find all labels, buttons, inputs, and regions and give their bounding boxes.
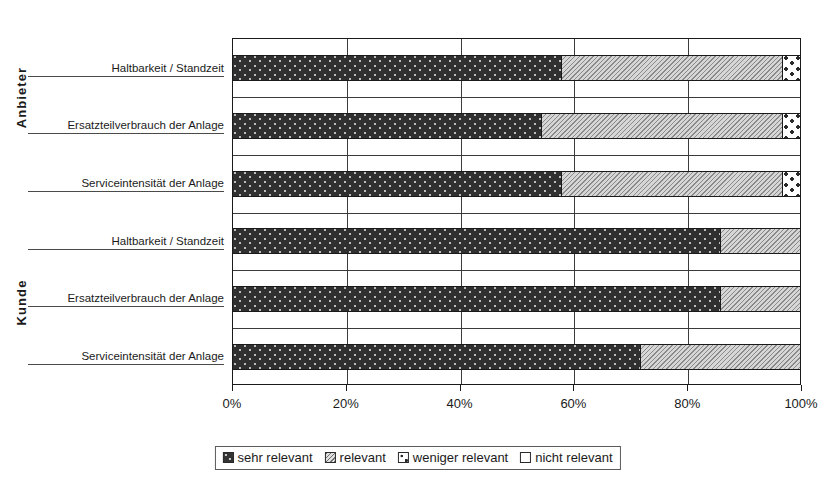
category-separator xyxy=(233,97,800,98)
x-axis-tick xyxy=(687,385,688,391)
category-separator xyxy=(233,328,800,329)
legend-item[interactable]: nicht relevant xyxy=(520,450,612,465)
x-axis-tick xyxy=(346,385,347,391)
segment-outline xyxy=(641,344,800,370)
x-axis-tick xyxy=(573,385,574,391)
category-label: Serviceintensität der Anlage xyxy=(28,349,224,365)
segment-outline xyxy=(542,113,782,139)
x-axis-tick-label: 20% xyxy=(333,396,359,411)
x-axis-tick xyxy=(232,385,233,391)
bar-segment[interactable] xyxy=(233,286,721,312)
bar-segment[interactable] xyxy=(783,55,800,81)
bar-segment[interactable] xyxy=(233,171,562,197)
bar-segment[interactable] xyxy=(233,55,562,81)
stacked-bar[interactable] xyxy=(233,286,800,312)
legend-label: weniger relevant xyxy=(413,450,508,465)
legend-item[interactable]: sehr relevant xyxy=(222,450,312,465)
x-axis-tick-label: 60% xyxy=(560,396,586,411)
gridline xyxy=(347,39,348,384)
category-separator xyxy=(233,270,800,271)
category-axis-labels: Haltbarkeit / Standzeit Ersatzteilverbra… xyxy=(26,0,224,480)
segment-outline xyxy=(562,55,782,81)
bar-segment[interactable] xyxy=(233,344,641,370)
segment-outline xyxy=(233,286,720,312)
segment-outline xyxy=(233,344,640,370)
x-axis-tick-label: 80% xyxy=(674,396,700,411)
legend-label: sehr relevant xyxy=(237,450,312,465)
segment-outline xyxy=(783,113,800,139)
category-label: Ersatzteilverbrauch der Anlage xyxy=(28,118,224,134)
legend-label: nicht relevant xyxy=(535,450,612,465)
gridline xyxy=(688,39,689,384)
legend: sehr relevantrelevantweniger relevantnic… xyxy=(214,446,620,470)
gridlines xyxy=(233,39,800,384)
bar-segment[interactable] xyxy=(721,228,800,254)
white-dots-swatch xyxy=(398,452,409,463)
stacked-bar[interactable] xyxy=(233,55,800,81)
category-label: Haltbarkeit / Standzeit xyxy=(28,61,224,77)
gridline xyxy=(574,39,575,384)
grey-hatch-swatch xyxy=(325,452,336,463)
dark-speckle-swatch xyxy=(222,452,233,463)
segment-outline xyxy=(233,55,561,81)
segment-outline xyxy=(233,228,720,254)
x-axis: 0%20%40%60%80%100% xyxy=(232,385,801,386)
bar-segment[interactable] xyxy=(562,55,783,81)
segment-outline xyxy=(233,113,541,139)
x-axis-tick xyxy=(801,385,802,391)
bar-segment[interactable] xyxy=(233,113,542,139)
x-axis-tick-label: 100% xyxy=(784,396,817,411)
bar-segment[interactable] xyxy=(562,171,783,197)
stacked-bar[interactable] xyxy=(233,171,800,197)
legend-item[interactable]: relevant xyxy=(325,450,386,465)
category-label: Haltbarkeit / Standzeit xyxy=(28,234,224,250)
category-separator xyxy=(233,155,800,156)
bar-segment[interactable] xyxy=(721,286,800,312)
bar-segment[interactable] xyxy=(783,171,800,197)
bar-segment[interactable] xyxy=(233,228,721,254)
bar-segment[interactable] xyxy=(542,113,783,139)
category-label: Ersatzteilverbrauch der Anlage xyxy=(28,291,224,307)
stacked-bar-chart: Anbieter Kunde Haltbarkeit / Standzeit E… xyxy=(0,0,835,480)
stacked-bar[interactable] xyxy=(233,344,800,370)
plot-area xyxy=(232,38,801,385)
x-axis-tick-label: 0% xyxy=(223,396,242,411)
category-label: Serviceintensität der Anlage xyxy=(28,176,224,192)
x-axis-tick-label: 40% xyxy=(447,396,473,411)
segment-outline xyxy=(721,286,800,312)
stacked-bar[interactable] xyxy=(233,113,800,139)
bar-segment[interactable] xyxy=(641,344,800,370)
segment-outline xyxy=(562,171,782,197)
gridline xyxy=(461,39,462,384)
x-axis-tick xyxy=(460,385,461,391)
stacked-bar[interactable] xyxy=(233,228,800,254)
segment-outline xyxy=(721,228,800,254)
segment-outline xyxy=(783,171,800,197)
legend-item[interactable]: weniger relevant xyxy=(398,450,508,465)
segment-outline xyxy=(783,55,800,81)
segment-outline xyxy=(233,171,561,197)
white-plain-swatch xyxy=(520,452,531,463)
bar-segment[interactable] xyxy=(783,113,800,139)
legend-label: relevant xyxy=(340,450,386,465)
category-separator xyxy=(233,213,800,214)
